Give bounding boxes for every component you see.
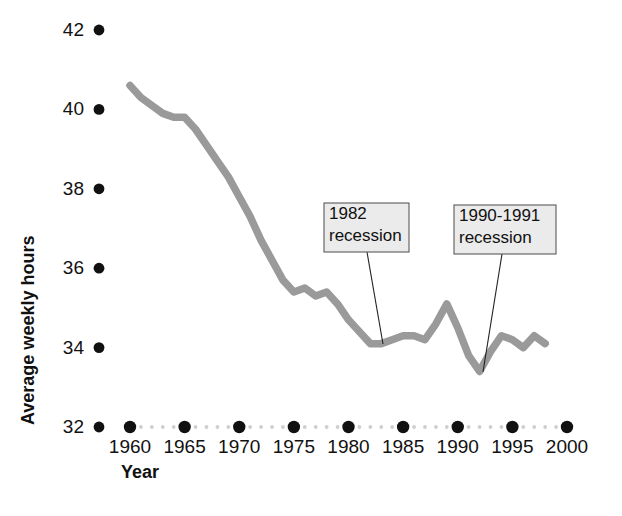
x-tick-dot [233, 421, 245, 433]
x-minor-tick-dot [478, 425, 482, 429]
x-minor-tick-dot [368, 425, 372, 429]
x-axis-title: Year [121, 462, 159, 482]
x-minor-tick-dot [532, 425, 536, 429]
x-tick-label: 1970 [218, 436, 260, 457]
x-tick-label: 1985 [382, 436, 424, 457]
y-axis: 323436384042 [63, 19, 105, 437]
x-tick-label: 1965 [163, 436, 205, 457]
y-axis-title: Average weekly hours [18, 236, 38, 425]
x-axis: 196019651970197519801985199019952000 [109, 421, 588, 457]
x-tick-dot [178, 421, 190, 433]
x-tick-dot [342, 421, 354, 433]
y-tick-dot [94, 104, 105, 115]
annotation-line-2: recession [459, 228, 532, 247]
x-minor-tick-dot [248, 425, 252, 429]
y-tick-label: 42 [63, 19, 84, 40]
x-tick-label: 1995 [491, 436, 533, 457]
x-tick-dot [397, 421, 409, 433]
x-tick-dot [506, 421, 518, 433]
y-tick-dot [94, 25, 105, 36]
x-minor-tick-dot [259, 425, 263, 429]
x-minor-tick-dot [194, 425, 198, 429]
annotation-leader-line [367, 252, 383, 344]
x-minor-tick-dot [336, 425, 340, 429]
x-minor-tick-dot [325, 425, 329, 429]
y-tick-label: 34 [63, 337, 85, 358]
y-tick-dot [94, 342, 105, 353]
x-minor-tick-dot [423, 425, 427, 429]
x-minor-tick-dot [412, 425, 416, 429]
chart-container: 323436384042 196019651970197519801985199… [0, 0, 622, 516]
x-tick-dot [561, 421, 573, 433]
x-tick-label: 1975 [273, 436, 315, 457]
y-tick-dot [94, 422, 105, 433]
x-minor-tick-dot [500, 425, 504, 429]
x-minor-tick-dot [216, 425, 220, 429]
x-tick-label: 1960 [109, 436, 151, 457]
annotation-leader-lines [367, 252, 502, 372]
x-tick-label: 1980 [327, 436, 369, 457]
x-minor-tick-dot [489, 425, 493, 429]
x-minor-tick-dot [445, 425, 449, 429]
y-tick-dot [94, 263, 105, 274]
x-minor-tick-dot [379, 425, 383, 429]
x-tick-dot [288, 421, 300, 433]
x-minor-tick-dot [521, 425, 525, 429]
x-tick-label: 1990 [437, 436, 479, 457]
x-minor-tick-dot [434, 425, 438, 429]
x-minor-tick-dot [270, 425, 274, 429]
x-minor-tick-dot [303, 425, 307, 429]
annotation-callout: 1990-1991recession [454, 205, 556, 254]
x-minor-tick-dot [467, 425, 471, 429]
annotation-line-2: recession [329, 226, 402, 245]
x-minor-tick-dot [543, 425, 547, 429]
x-minor-tick-dot [139, 425, 143, 429]
y-tick-label: 38 [63, 178, 84, 199]
y-tick-label: 36 [63, 257, 84, 278]
x-minor-tick-dot [161, 425, 165, 429]
x-minor-tick-dot [390, 425, 394, 429]
weekly-hours-line-chart: 323436384042 196019651970197519801985199… [0, 0, 622, 516]
x-minor-tick-dot [554, 425, 558, 429]
x-minor-tick-dot [314, 425, 318, 429]
annotation-callouts: 1982recession1990-1991recession [324, 203, 556, 254]
y-tick-label: 40 [63, 98, 84, 119]
annotation-line-1: 1990-1991 [459, 206, 540, 225]
x-tick-dot [452, 421, 464, 433]
y-tick-label: 32 [63, 416, 84, 437]
x-minor-tick-dot [150, 425, 154, 429]
x-minor-tick-dot [172, 425, 176, 429]
x-tick-dot [124, 421, 136, 433]
annotation-line-1: 1982 [329, 204, 367, 223]
x-minor-tick-dot [358, 425, 362, 429]
y-tick-dot [94, 183, 105, 194]
x-minor-tick-dot [205, 425, 209, 429]
x-minor-tick-dot [281, 425, 285, 429]
x-tick-label: 2000 [546, 436, 588, 457]
x-minor-tick-dot [226, 425, 230, 429]
annotation-callout: 1982recession [324, 203, 409, 252]
